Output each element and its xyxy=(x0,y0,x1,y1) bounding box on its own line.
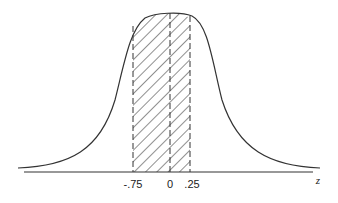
normal-curve-diagram: -.75 0 .25 z xyxy=(0,0,338,203)
shaded-area xyxy=(133,10,190,172)
axis-label-z: z xyxy=(315,174,321,186)
tick-label-neg-075: -.75 xyxy=(124,178,143,190)
tick-label-025: .25 xyxy=(184,178,199,190)
tick-label-zero: 0 xyxy=(167,178,173,190)
